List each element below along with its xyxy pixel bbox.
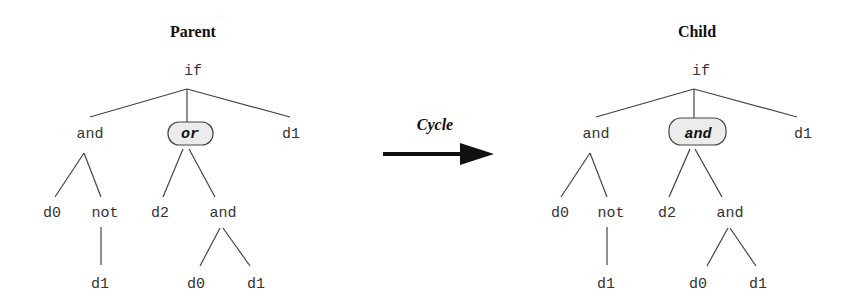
child-tree: Child if and and d1 d0 not d2 and d1 d0 … — [551, 23, 812, 293]
parent-node-d0-leaf: d0 — [187, 276, 205, 293]
parent-node-d2: d2 — [151, 205, 169, 222]
crossover-diagram: Parent if and or d1 d0 not d2 and d1 d0 … — [0, 0, 844, 307]
parent-node-d0: d0 — [43, 205, 61, 222]
child-node-d1: d1 — [794, 126, 812, 143]
parent-node-or-highlighted: or — [181, 126, 199, 143]
cycle-arrow: Cycle — [383, 116, 494, 165]
edge — [695, 149, 722, 197]
child-node-d1-leaf: d1 — [597, 276, 615, 293]
parent-tree: Parent if and or d1 d0 not d2 and d1 d0 … — [43, 23, 300, 293]
child-node-and-2: and — [716, 205, 743, 222]
parent-root-node: if — [184, 63, 202, 80]
parent-title: Parent — [170, 23, 217, 40]
parent-node-and-2: and — [209, 205, 236, 222]
arrow-head-icon — [460, 143, 494, 165]
parent-node-not: not — [91, 205, 118, 222]
child-title: Child — [678, 23, 716, 40]
edge — [561, 153, 590, 197]
parent-node-d1-leaf: d1 — [91, 276, 109, 293]
child-node-and-highlighted: and — [684, 126, 712, 143]
edge — [596, 89, 694, 117]
child-node-d1-leaf-2: d1 — [749, 276, 767, 293]
child-node-d0-leaf: d0 — [689, 276, 707, 293]
edge — [223, 228, 250, 266]
edge — [669, 149, 690, 197]
parent-node-and: and — [76, 126, 103, 143]
edge — [84, 153, 101, 197]
edge — [200, 228, 220, 266]
child-node-d0: d0 — [551, 205, 569, 222]
child-node-and: and — [582, 126, 609, 143]
edge — [590, 153, 607, 197]
edge — [694, 89, 797, 117]
edge — [730, 228, 756, 266]
edge — [189, 149, 215, 197]
parent-node-d1-leaf-2: d1 — [247, 276, 265, 293]
child-node-not: not — [597, 205, 624, 222]
edge — [163, 149, 183, 197]
child-node-d2: d2 — [658, 205, 676, 222]
edge — [187, 89, 290, 117]
child-root-node: if — [692, 63, 710, 80]
edge — [55, 153, 84, 197]
edge — [90, 89, 187, 117]
parent-node-d1: d1 — [282, 126, 300, 143]
edge — [707, 228, 728, 266]
arrow-label: Cycle — [417, 116, 453, 134]
